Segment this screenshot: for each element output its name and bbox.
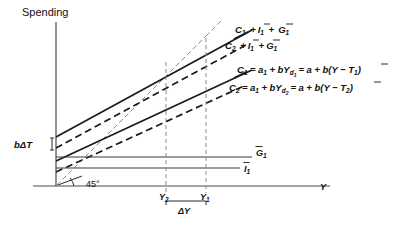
x-axis-label: Y (320, 182, 327, 192)
curve-aggregate-expenditure-2 (56, 45, 246, 148)
tick-label-y2: Y2 (159, 192, 169, 203)
label-equation-consumption-1: C1=a1+bYd1=a+b(Y−T1) (237, 64, 388, 78)
label-equation-aggregate-2: C2 +I1 +G1 (225, 40, 280, 52)
forty-five-degree-ray-extension (206, 20, 222, 36)
svg-text:C1=a1+bYd1=a+b(Y−T1): C1=a1+bYd1=a+b(Y−T1) (237, 64, 361, 78)
keynesian-cross-chart: Spending Y bΔT 45° Y2 Y1 ΔY G1 I1 C1 +I1… (0, 0, 408, 230)
tick-label-y1: Y1 (200, 192, 210, 203)
bracket-bdeltaT (50, 138, 54, 150)
angle-arm-line (58, 176, 82, 185)
label-investment: I1 (244, 164, 251, 175)
label-delta-y: ΔY (177, 206, 191, 216)
forty-five-degree-ray (57, 36, 206, 185)
svg-text:C2 +I1 +G1: C2 +I1 +G1 (225, 40, 278, 52)
svg-text:C2=a1+bYd2=a+b(Y−T2): C2=a1+bYd2=a+b(Y−T2) (229, 82, 353, 96)
label-equation-consumption-2: C2=a1+bYd2=a+b(Y−T2) (229, 82, 381, 96)
label-angle-45: 45° (86, 179, 100, 189)
curve-consumption-2 (56, 85, 246, 172)
y-axis-label: Spending (22, 6, 69, 18)
label-bdeltaT: bΔT (14, 139, 33, 150)
label-government-spending: G1 (256, 148, 267, 159)
